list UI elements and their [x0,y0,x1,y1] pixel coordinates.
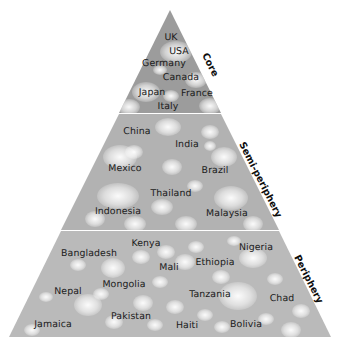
country-label: India [175,139,199,150]
country-label: Tanzania [189,289,231,300]
country-label: Mongolia [102,279,145,290]
country-label: Pakistan [111,311,151,322]
country-label: Mexico [108,163,141,174]
country-label: Nigeria [239,242,273,253]
country-label: Japan [139,87,166,98]
country-label: Germany [142,58,186,69]
country-label: USA [169,46,189,57]
country-label: Haiti [176,320,198,331]
pyramid-diagram: UKUSAGermanyCanadaJapanFranceItalyChinaI… [0,0,337,351]
country-label: Bangladesh [61,248,117,259]
country-label: Nepal [54,286,82,297]
country-label: Chad [270,293,295,304]
country-label: Jamaica [34,319,72,330]
country-label: France [181,88,213,99]
country-label: Ethiopia [196,257,235,268]
country-label: Indonesia [95,206,141,217]
country-label: Mali [159,262,178,273]
country-label: Brazil [202,165,229,176]
country-label: Malaysia [206,208,248,219]
country-label: UK [164,32,177,43]
country-label: Canada [163,72,199,83]
country-label: Bolivia [230,319,262,330]
country-label: Italy [158,101,179,112]
country-label: China [123,126,150,137]
country-label: Kenya [131,238,160,249]
country-label: Thailand [150,188,191,199]
